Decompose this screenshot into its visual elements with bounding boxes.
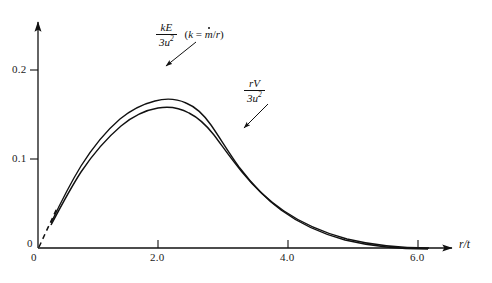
x-tick-label-2.0: 2.0 — [150, 251, 164, 263]
x-origin-label: 0 — [31, 251, 37, 263]
paren-close: ) — [220, 28, 224, 40]
fraction-denominator-3u2: 3u2 — [156, 35, 177, 48]
y-origin-label: 0 — [27, 237, 33, 249]
m-dot-symbol: m — [205, 29, 213, 41]
y-axis — [30, 22, 38, 248]
denominator-text-second: 3u — [247, 91, 258, 103]
x-tick-label-6.0: 6.0 — [410, 251, 424, 263]
figure-container: 0.2 0.1 0 0 2.0 4.0 6.0 r/t kE 3u2 (k = … — [0, 0, 492, 283]
x-axis-title: r/t — [459, 238, 470, 250]
curve-label-rV-over-3u2: rV 3u2 — [244, 78, 265, 104]
fraction-denominator-3u2-second: 3u2 — [244, 91, 265, 104]
equals-sign: = — [196, 28, 202, 40]
fraction-kE-over-3u2: kE 3u2 — [156, 22, 177, 48]
denominator-text: 3u — [159, 35, 170, 47]
curve-rV-over-3u2 — [51, 107, 429, 248]
curve-label-kE-over-3u2: kE 3u2 (k = m/r) — [156, 22, 224, 48]
y-tick-label-0.1: 0.1 — [12, 152, 26, 164]
rV-label-leader-line — [244, 104, 268, 128]
fraction-rV-over-3u2: rV 3u2 — [244, 78, 265, 104]
denominator-exponent-second: 2 — [258, 90, 262, 99]
k-symbol: k — [188, 28, 193, 40]
curve-kE-over-3u2 — [51, 99, 428, 249]
y-tick-label-0.2: 0.2 — [12, 63, 26, 75]
denominator-exponent: 2 — [170, 34, 174, 43]
k-definition-note: (k = m/r) — [180, 29, 224, 41]
curve-initial-dashed-segment — [39, 206, 58, 247]
plot-area — [0, 0, 492, 283]
x-tick-label-4.0: 4.0 — [280, 251, 294, 263]
